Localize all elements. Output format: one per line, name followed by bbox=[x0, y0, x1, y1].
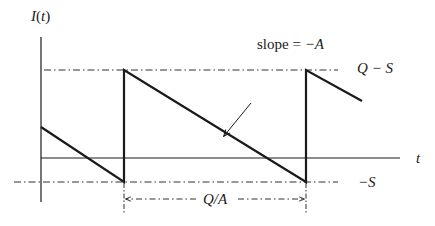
slope-pointer-arrow bbox=[224, 103, 251, 136]
inventory-diagram: I(t) t slope = −A Q − S −S Q/A bbox=[0, 0, 435, 226]
slope-label: slope = −A bbox=[257, 36, 325, 52]
period-label: Q/A bbox=[203, 191, 228, 207]
inventory-curve bbox=[41, 70, 362, 182]
level-bottom-label: −S bbox=[358, 174, 376, 190]
level-top-label: Q − S bbox=[357, 60, 393, 76]
x-axis-label: t bbox=[416, 150, 421, 166]
y-axis-label: I(t) bbox=[30, 8, 50, 25]
